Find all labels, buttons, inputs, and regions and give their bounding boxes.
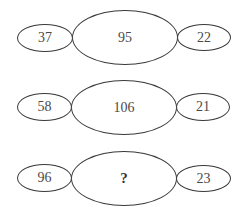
row2-center-value: 106 xyxy=(114,101,135,115)
ellipse-number-puzzle: 95 37 22 106 58 21 ? 96 23 xyxy=(0,0,244,220)
row3-center-unknown: ? xyxy=(120,171,128,186)
row3-right-value: 23 xyxy=(197,172,211,186)
row2-center-ellipse: 106 xyxy=(71,80,177,135)
row1-right-value: 22 xyxy=(197,31,211,45)
row2-right-ellipse: 21 xyxy=(176,93,230,121)
row2-right-value: 21 xyxy=(196,100,210,114)
row2-left-ellipse: 58 xyxy=(17,93,72,121)
row1-left-ellipse: 37 xyxy=(17,24,73,52)
row3-left-ellipse: 96 xyxy=(17,164,72,192)
row1-right-ellipse: 22 xyxy=(177,24,231,51)
row3-center-ellipse: ? xyxy=(71,151,177,206)
row1-left-value: 37 xyxy=(38,31,52,45)
row3-right-ellipse: 23 xyxy=(176,165,231,192)
row2-left-value: 58 xyxy=(38,100,52,114)
row1-center-ellipse: 95 xyxy=(72,10,178,65)
row1-center-value: 95 xyxy=(118,31,132,45)
row3-left-value: 96 xyxy=(38,171,52,185)
